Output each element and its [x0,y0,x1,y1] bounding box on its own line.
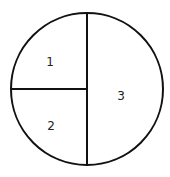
region-label-2: 2 [47,119,55,133]
region-label-1: 1 [46,55,54,69]
partitioned-circle-diagram: 1 2 3 [0,0,170,177]
region-label-3: 3 [117,89,125,103]
